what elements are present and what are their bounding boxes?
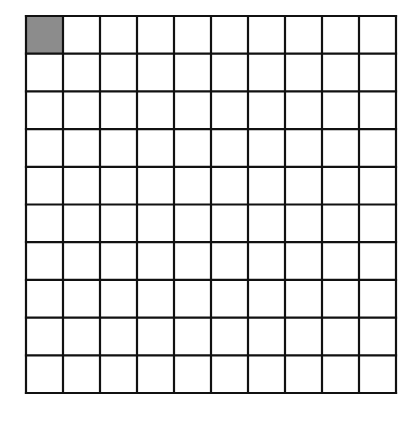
- grid-cell: [174, 318, 211, 356]
- grid-cell: [137, 167, 174, 205]
- grid-cell: [322, 242, 359, 280]
- grid-cell: [285, 280, 322, 318]
- grid-cell: [359, 54, 396, 92]
- grid-cell: [285, 205, 322, 243]
- grid-cell: [100, 16, 137, 54]
- grid-cell: [137, 280, 174, 318]
- grid-cell: [100, 167, 137, 205]
- grid-cell: [100, 129, 137, 167]
- grid-cell: [248, 205, 285, 243]
- grid-cell: [322, 129, 359, 167]
- grid-cell: [174, 242, 211, 280]
- grid-cell: [359, 318, 396, 356]
- grid-cell: [211, 16, 248, 54]
- grid-cell: [63, 16, 100, 54]
- grid-cell: [285, 355, 322, 393]
- grid-cell: [359, 355, 396, 393]
- grid-cell: [285, 54, 322, 92]
- grid-cell: [211, 167, 248, 205]
- grid-cell: [248, 129, 285, 167]
- grid-cell: [359, 205, 396, 243]
- grid-canvas: [0, 0, 410, 424]
- grid-cell: [100, 205, 137, 243]
- grid-cell: [322, 280, 359, 318]
- grid-cell: [248, 91, 285, 129]
- grid-cell: [63, 205, 100, 243]
- grid-cell: [211, 129, 248, 167]
- grid-cell: [359, 167, 396, 205]
- grid-cell: [248, 355, 285, 393]
- grid-cell: [248, 280, 285, 318]
- grid-cell: [285, 242, 322, 280]
- grid-cell: [174, 355, 211, 393]
- grid-cell: [63, 167, 100, 205]
- grid-cell: [322, 16, 359, 54]
- shaded-cell: [26, 16, 63, 54]
- grid-cell: [248, 242, 285, 280]
- grid-cell: [174, 16, 211, 54]
- grid-cell: [26, 242, 63, 280]
- grid-cell: [26, 54, 63, 92]
- grid-cell: [63, 318, 100, 356]
- grid-cell: [285, 318, 322, 356]
- grid-cell: [63, 355, 100, 393]
- grid-cell: [100, 318, 137, 356]
- grid-cell: [26, 91, 63, 129]
- grid-cell: [26, 205, 63, 243]
- grid-cell: [174, 129, 211, 167]
- grid-cell: [359, 91, 396, 129]
- grid-cell: [322, 318, 359, 356]
- grid-cell: [248, 318, 285, 356]
- grid-cell: [285, 16, 322, 54]
- grid-cell: [100, 91, 137, 129]
- grid-cell: [100, 355, 137, 393]
- grid-cell: [26, 280, 63, 318]
- grid-cell: [211, 205, 248, 243]
- grid-cell: [63, 91, 100, 129]
- grid-cell: [211, 54, 248, 92]
- grid-cell: [137, 355, 174, 393]
- grid-cell: [211, 91, 248, 129]
- grid-cell: [26, 355, 63, 393]
- grid-cell: [63, 54, 100, 92]
- grid-cell: [137, 205, 174, 243]
- grid-cell: [137, 91, 174, 129]
- grid-cell: [26, 167, 63, 205]
- grid-cell: [359, 129, 396, 167]
- grid-cell: [137, 318, 174, 356]
- grid-cell: [211, 280, 248, 318]
- grid-cell: [26, 318, 63, 356]
- grid-cell: [174, 54, 211, 92]
- grid-cell: [359, 280, 396, 318]
- grid-cell: [322, 91, 359, 129]
- grid-cell: [26, 129, 63, 167]
- grid-cell: [211, 355, 248, 393]
- grid-cell: [359, 242, 396, 280]
- grid-cell: [174, 91, 211, 129]
- grid-cell: [285, 167, 322, 205]
- grid-cell: [248, 54, 285, 92]
- grid-cell: [322, 205, 359, 243]
- grid-cell: [174, 280, 211, 318]
- grid-cell: [63, 129, 100, 167]
- grid-cell: [322, 355, 359, 393]
- grid-cell: [248, 167, 285, 205]
- grid-cell: [211, 242, 248, 280]
- grid-cell: [285, 91, 322, 129]
- grid-cell: [137, 242, 174, 280]
- grid-cell: [285, 129, 322, 167]
- grid-cell: [100, 54, 137, 92]
- grid-cell: [211, 318, 248, 356]
- grid-cell: [63, 280, 100, 318]
- grid-cell: [322, 54, 359, 92]
- grid-cell: [174, 167, 211, 205]
- grid-cell: [100, 242, 137, 280]
- grid-cell: [63, 242, 100, 280]
- grid-cell: [359, 16, 396, 54]
- grid-cell: [137, 129, 174, 167]
- grid-cell: [100, 280, 137, 318]
- grid-cell: [137, 54, 174, 92]
- grid-cell: [322, 167, 359, 205]
- grid-cell: [174, 205, 211, 243]
- grid-cell: [248, 16, 285, 54]
